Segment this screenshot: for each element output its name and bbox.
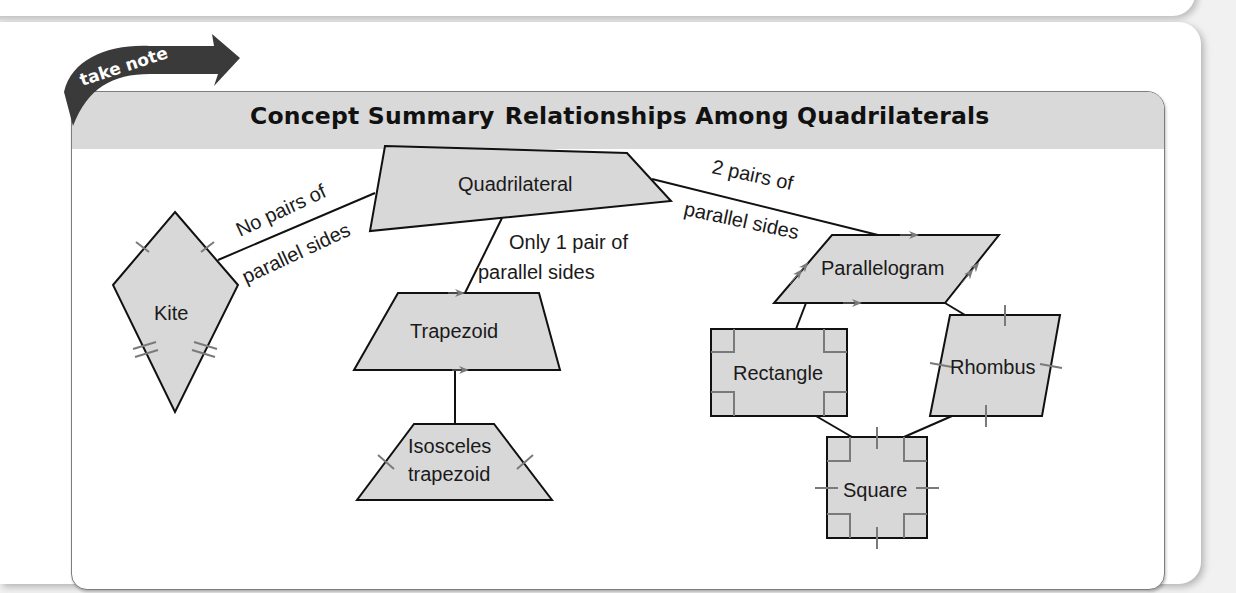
- shape-square: Square: [815, 427, 939, 549]
- label-quadrilateral: Quadrilateral: [458, 173, 573, 195]
- two-pairs-line2: parallel sides: [682, 197, 801, 243]
- label-isosceles-line1: Isosceles: [408, 435, 491, 457]
- two-pairs-line1: 2 pairs of: [710, 155, 795, 194]
- label-kite: Kite: [154, 302, 188, 324]
- edge-label-one-pair: Only 1 pair of parallel sides: [478, 231, 628, 283]
- take-note-badge: take note: [64, 34, 240, 126]
- edge-para-rectangle: [796, 303, 806, 329]
- label-rectangle: Rectangle: [733, 362, 823, 384]
- quadrilateral-hierarchy-diagram: take note Quadrilateral Kite Tr: [0, 0, 1236, 593]
- label-trapezoid: Trapezoid: [410, 320, 498, 342]
- shape-kite: Kite: [113, 212, 238, 412]
- label-parallelogram: Parallelogram: [821, 257, 944, 279]
- shape-isosceles-trapezoid: Isosceles trapezoid: [357, 424, 552, 500]
- edge-label-two-pairs: 2 pairs of parallel sides: [682, 155, 801, 243]
- label-square: Square: [843, 479, 908, 501]
- label-rhombus: Rhombus: [950, 356, 1036, 378]
- shape-trapezoid: Trapezoid: [354, 293, 560, 370]
- edge-rect-square: [816, 416, 852, 437]
- edge-rhombus-square: [904, 416, 952, 437]
- edge-label-no-pairs: No pairs of parallel sides: [232, 180, 353, 288]
- shape-rhombus: Rhombus: [930, 305, 1062, 427]
- edge-para-rhombus: [945, 303, 965, 315]
- connectors: [218, 179, 965, 437]
- shape-rectangle: Rectangle: [711, 329, 847, 416]
- shape-parallelogram: Parallelogram: [774, 235, 999, 303]
- one-pair-line2: parallel sides: [478, 261, 595, 283]
- label-isosceles-line2: trapezoid: [408, 463, 490, 485]
- one-pair-line1: Only 1 pair of: [509, 231, 628, 253]
- shape-quadrilateral: Quadrilateral: [370, 146, 671, 231]
